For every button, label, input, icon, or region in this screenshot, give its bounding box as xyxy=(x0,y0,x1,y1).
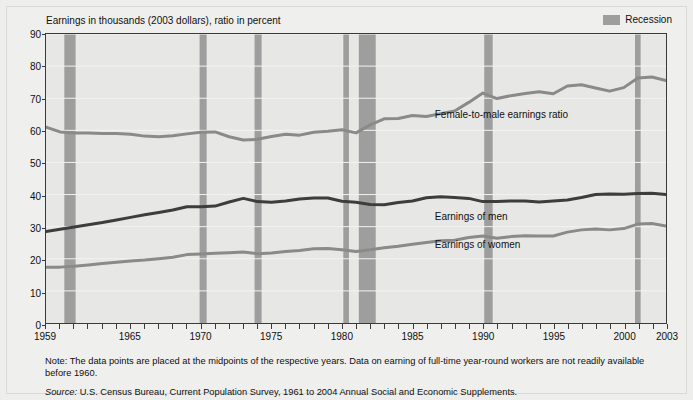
x-tick-mark xyxy=(257,324,258,329)
source-line: Source: U.S. Census Bureau, Current Popu… xyxy=(45,386,670,398)
figure-container: Median Annual Earnings, 1998 Dollars (th… xyxy=(0,0,693,400)
y-tick-label: 90 xyxy=(30,29,41,40)
x-tick-label: 1965 xyxy=(119,331,141,342)
x-tick-mark xyxy=(215,324,216,329)
y-tick-label: 70 xyxy=(30,93,41,104)
recession-band xyxy=(200,34,207,323)
x-tick-mark xyxy=(540,324,541,329)
recession-legend-label: Recession xyxy=(625,14,672,25)
bottom-strip xyxy=(0,400,693,415)
y-tick-label: 80 xyxy=(30,61,41,72)
y-tick-mark xyxy=(42,66,46,67)
x-tick-mark xyxy=(299,324,300,329)
y-tick-mark xyxy=(42,260,46,261)
legend: Recession xyxy=(603,14,672,25)
x-tick-mark xyxy=(158,324,159,329)
x-tick-mark xyxy=(398,324,399,329)
y-tick-mark xyxy=(42,34,46,35)
y-tick-mark xyxy=(42,228,46,229)
series-lines xyxy=(46,77,666,267)
x-tick-label: 2003 xyxy=(656,331,678,342)
recession-band xyxy=(64,34,75,323)
note-text: Note: The data points are placed at the … xyxy=(45,355,670,379)
y-tick-mark xyxy=(42,131,46,132)
x-tick-mark xyxy=(102,324,103,329)
x-tick-mark xyxy=(285,324,286,329)
x-tick-label: 1959 xyxy=(34,331,56,342)
x-tick-mark xyxy=(497,324,498,329)
x-tick-label: 1995 xyxy=(543,331,565,342)
series-label-ratio: Female-to-male earnings ratio xyxy=(435,109,568,120)
x-tick-mark xyxy=(87,324,88,329)
y-tick-label: 60 xyxy=(30,126,41,137)
y-tick-mark xyxy=(42,293,46,294)
x-tick-mark xyxy=(172,324,173,329)
x-tick-mark xyxy=(653,324,654,329)
y-tick-label: 30 xyxy=(30,223,41,234)
x-tick-mark xyxy=(130,324,131,329)
x-tick-mark xyxy=(314,324,315,329)
x-tick-mark xyxy=(201,324,202,329)
y-tick-mark xyxy=(42,196,46,197)
x-tick-mark xyxy=(610,324,611,329)
x-tick-mark xyxy=(229,324,230,329)
chart-title: Earnings in thousands (2003 dollars), ra… xyxy=(46,15,281,26)
x-tick-label: 1985 xyxy=(401,331,423,342)
x-tick-mark xyxy=(483,324,484,329)
y-tick-label: 20 xyxy=(30,255,41,266)
x-tick-mark xyxy=(59,324,60,329)
x-tick-mark xyxy=(469,324,470,329)
x-tick-label: 2000 xyxy=(613,331,635,342)
x-tick-mark xyxy=(45,324,46,329)
series-line xyxy=(46,193,666,231)
recession-band xyxy=(484,34,492,323)
x-tick-mark xyxy=(413,324,414,329)
figure-inner-panel: Median Annual Earnings, 1998 Dollars (th… xyxy=(6,6,687,394)
recession-band xyxy=(343,34,349,323)
x-tick-mark xyxy=(455,324,456,329)
x-tick-mark xyxy=(116,324,117,329)
y-tick-label: 10 xyxy=(30,287,41,298)
recession-bands xyxy=(64,34,640,323)
x-tick-label: 1980 xyxy=(331,331,353,342)
x-tick-mark xyxy=(384,324,385,329)
x-tick-mark xyxy=(73,324,74,329)
x-tick-mark xyxy=(582,324,583,329)
x-tick-label: 1975 xyxy=(260,331,282,342)
y-tick-label: 40 xyxy=(30,190,41,201)
x-tick-mark xyxy=(356,324,357,329)
series-label-men: Earnings of men xyxy=(435,211,508,222)
recession-band xyxy=(255,34,262,323)
x-tick-mark xyxy=(639,324,640,329)
x-tick-label: 1990 xyxy=(472,331,494,342)
x-tick-mark xyxy=(342,324,343,329)
x-tick-mark xyxy=(568,324,569,329)
footnotes: Note: The data points are placed at the … xyxy=(45,355,670,398)
x-tick-mark xyxy=(243,324,244,329)
recession-band xyxy=(359,34,376,323)
x-tick-mark xyxy=(596,324,597,329)
x-tick-mark xyxy=(328,324,329,329)
x-tick-mark xyxy=(554,324,555,329)
x-tick-mark xyxy=(370,324,371,329)
x-tick-mark xyxy=(625,324,626,329)
y-tick-mark xyxy=(42,163,46,164)
x-tick-mark xyxy=(144,324,145,329)
series-label-women: Earnings of women xyxy=(435,239,521,250)
x-tick-mark xyxy=(512,324,513,329)
series-line xyxy=(46,223,666,267)
x-axis: 1959196519701975198019851990199520002003 xyxy=(45,324,667,354)
x-tick-mark xyxy=(667,324,668,329)
y-tick-mark xyxy=(42,99,46,100)
y-tick-label: 0 xyxy=(35,320,41,331)
x-tick-mark xyxy=(441,324,442,329)
x-tick-mark xyxy=(526,324,527,329)
recession-legend-swatch xyxy=(603,15,620,25)
x-tick-label: 1970 xyxy=(189,331,211,342)
plot-svg xyxy=(46,34,666,323)
source-text: U.S. Census Bureau, Current Population S… xyxy=(77,387,517,397)
source-word: Source: xyxy=(45,387,77,397)
x-tick-mark xyxy=(186,324,187,329)
y-tick-label: 50 xyxy=(30,158,41,169)
x-tick-mark xyxy=(427,324,428,329)
